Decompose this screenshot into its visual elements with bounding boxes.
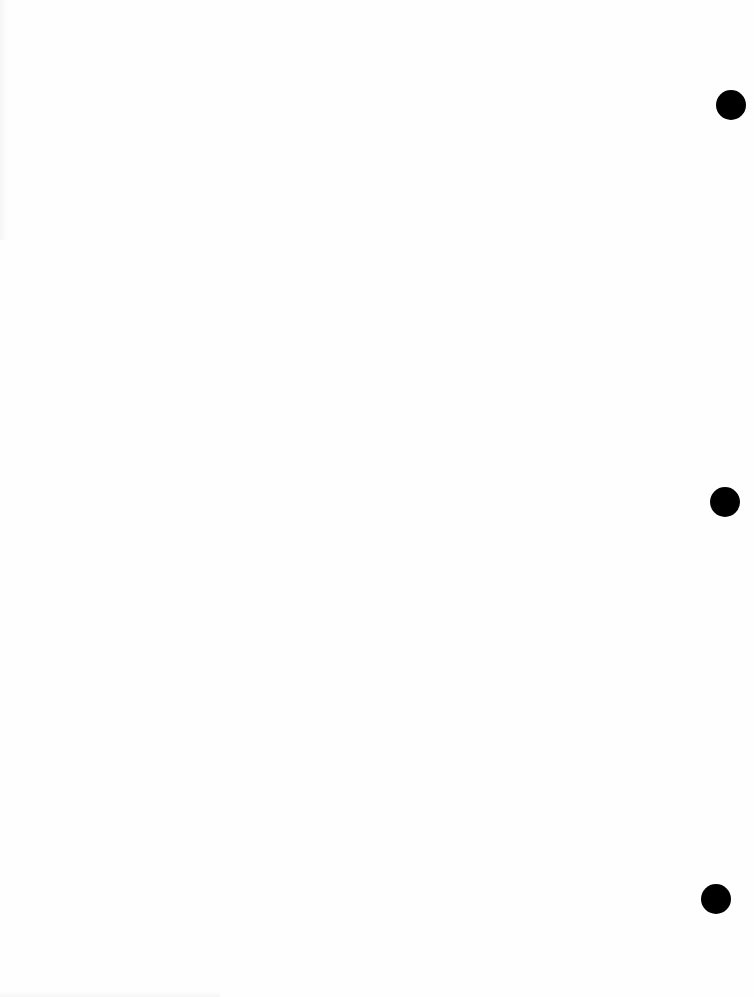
- bottom-edge-shadow: [0, 991, 220, 997]
- scanned-page: [0, 0, 754, 997]
- punch-hole-top: [716, 90, 746, 120]
- punch-hole-middle: [710, 487, 740, 517]
- left-edge-shadow: [0, 0, 8, 240]
- punch-hole-bottom: [701, 884, 731, 914]
